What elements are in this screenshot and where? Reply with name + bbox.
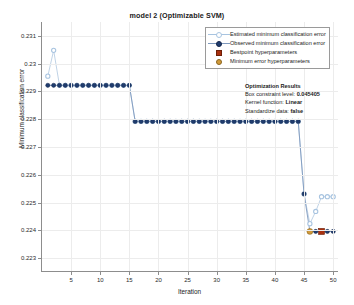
y-axis-tick: [38, 203, 42, 204]
data-point: [92, 83, 96, 87]
x-axis-tick-label: 25: [184, 277, 191, 283]
y-gridline: [42, 258, 338, 259]
x-axis-tick-label: 50: [330, 277, 337, 283]
optimization-result-label: Standardize data:: [245, 108, 289, 114]
legend-marker-icon: [208, 30, 230, 39]
y-axis-tick: [38, 119, 42, 120]
optimization-result-row: Standardize data: false: [245, 107, 320, 115]
x-axis-tick: [71, 271, 72, 275]
bestpoint-hyperparameters-marker: [319, 228, 325, 234]
data-point: [46, 83, 50, 87]
y-gridline: [42, 119, 338, 120]
x-axis-tick: [304, 271, 305, 275]
legend-item[interactable]: Estimated minimum classification error: [208, 30, 326, 39]
legend-item-label: Minimum error hyperparameters: [230, 57, 310, 66]
legend-item[interactable]: Observed minimum classification error: [208, 39, 326, 48]
x-axis-tick-label: 45: [301, 277, 308, 283]
x-axis-title: Iteration: [41, 288, 338, 295]
legend-item-label: Estimated minimum classification error: [230, 30, 326, 39]
data-point: [75, 83, 79, 87]
y-gridline: [42, 147, 338, 148]
data-point: [104, 83, 108, 87]
legend-marker-icon: [208, 57, 230, 66]
y-axis-tick: [38, 91, 42, 92]
data-point: [110, 83, 114, 87]
x-axis-tick: [188, 271, 189, 275]
x-axis-tick-label: 30: [213, 277, 220, 283]
data-point: [86, 83, 90, 87]
y-axis-tick: [38, 36, 42, 37]
series-line: [48, 50, 333, 223]
x-axis-tick-label: 15: [126, 277, 133, 283]
optimization-result-row: Box constraint level: 0.045405: [245, 90, 320, 98]
matlab-optimization-plot-figure: model 2 (Optimizable SVM) 51015202530354…: [0, 0, 354, 305]
x-axis-tick-label: 5: [69, 277, 72, 283]
data-point: [308, 222, 312, 226]
y-axis-tick-label: 0.224: [21, 227, 36, 233]
x-axis-tick: [158, 271, 159, 275]
optimization-result-row: Kernel function: Linear: [245, 98, 320, 106]
y-axis-tick: [38, 258, 42, 259]
x-axis-tick-label: 10: [97, 277, 104, 283]
data-point: [52, 48, 56, 52]
legend-item[interactable]: Minimum error hyperparameters: [208, 57, 326, 66]
legend-item-label: Bestpoint hyperparameters: [230, 48, 297, 57]
legend-item[interactable]: Bestpoint hyperparameters: [208, 48, 326, 57]
legend-item-label: Observed minimum classification error: [230, 39, 325, 48]
optimization-results-heading: Optimization Results: [245, 82, 320, 90]
optimization-result-value: Linear: [285, 99, 302, 105]
optimization-result-label: Kernel function:: [245, 99, 284, 105]
data-point: [46, 74, 50, 78]
x-axis-tick: [275, 271, 276, 275]
y-axis-tick-label: 0.225: [21, 200, 36, 206]
optimization-result-value: 0.045405: [297, 91, 320, 97]
x-axis-tick-label: 20: [155, 277, 162, 283]
page-title: model 2 (Optimizable SVM): [0, 11, 354, 20]
data-point: [116, 83, 120, 87]
data-point: [52, 83, 56, 87]
data-point: [81, 83, 85, 87]
x-axis-tick-label: 35: [242, 277, 249, 283]
x-axis-tick: [217, 271, 218, 275]
x-axis-tick: [333, 271, 334, 275]
data-point: [57, 83, 61, 87]
y-axis-tick: [38, 175, 42, 176]
y-axis-title: Minimum classification error: [18, 34, 25, 184]
data-point: [63, 83, 67, 87]
y-axis-tick: [38, 147, 42, 148]
y-axis-tick: [38, 230, 42, 231]
y-axis-tick-label: 0.223: [21, 255, 36, 261]
x-axis-tick: [246, 271, 247, 275]
data-point: [314, 209, 318, 213]
legend-marker-icon: [208, 48, 230, 57]
y-gridline: [42, 203, 338, 204]
x-axis-tick-label: 40: [272, 277, 279, 283]
y-axis-tick-label: 0.23: [24, 61, 36, 67]
x-axis-tick: [129, 271, 130, 275]
y-axis-tick: [38, 64, 42, 65]
optimization-result-value: false: [290, 108, 303, 114]
data-point: [325, 195, 329, 199]
chart-legend: Estimated minimum classification errorOb…: [205, 27, 330, 69]
optimization-result-label: Box constraint level:: [245, 91, 295, 97]
y-gridline: [42, 175, 338, 176]
x-axis-tick: [100, 271, 101, 275]
legend-marker-icon: [208, 39, 230, 48]
data-point: [319, 195, 323, 199]
optimization-results-panel: Optimization Results Box constraint leve…: [245, 82, 320, 115]
data-point: [121, 83, 125, 87]
y-gridline: [42, 230, 338, 231]
